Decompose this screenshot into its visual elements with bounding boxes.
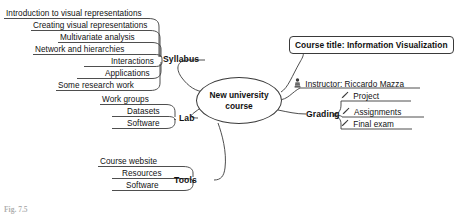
pen-icon — [340, 119, 349, 130]
list-item[interactable]: Datasets — [126, 108, 161, 117]
list-item[interactable]: Assignments — [340, 107, 402, 119]
list-item-label: Final exam — [353, 120, 394, 129]
list-item[interactable]: Software — [126, 120, 161, 129]
person-icon — [294, 78, 301, 90]
list-item[interactable]: Network and hierarchies — [34, 46, 125, 55]
list-item[interactable]: Resources — [121, 170, 163, 179]
list-item-label: Assignments — [354, 108, 401, 117]
central-node-label: New university course — [197, 90, 281, 111]
list-item[interactable]: Creating visual representations — [32, 22, 148, 31]
central-node[interactable]: New university course — [196, 77, 282, 124]
list-item[interactable]: Interactions — [110, 58, 155, 67]
branch-label-lab[interactable]: Lab — [179, 114, 195, 123]
branch-label-syllabus[interactable]: Syllabus — [163, 55, 199, 64]
list-item[interactable]: Applications — [104, 70, 151, 79]
list-item[interactable]: Project — [339, 91, 380, 103]
list-item[interactable]: Software — [125, 182, 160, 191]
list-item[interactable]: Some research work — [57, 82, 135, 91]
list-item[interactable]: Multivariate analysis — [59, 34, 136, 43]
list-item[interactable]: Final exam — [339, 119, 395, 131]
course-title-box[interactable]: Course title: Information Visualization — [289, 36, 454, 54]
list-item[interactable]: Introduction to visual representations — [5, 10, 143, 19]
list-item[interactable]: Work groups — [101, 96, 150, 105]
course-title-label: Course title: Information Visualization — [295, 40, 448, 50]
branch-label-grading[interactable]: Grading — [306, 110, 340, 119]
mind-map-canvas: Introduction to visual representations C… — [0, 0, 465, 214]
branch-label-tools[interactable]: Tools — [174, 176, 197, 185]
list-item[interactable]: Course website — [99, 158, 158, 167]
instructor-label: Instructor: Riccardo Mazza — [305, 80, 404, 89]
figure-caption: Fig. 7.5 — [4, 205, 28, 214]
list-item-label: Project — [353, 92, 379, 101]
pen-icon — [340, 91, 349, 102]
instructor-row[interactable]: Instructor: Riccardo Mazza — [293, 78, 405, 91]
pen-icon — [341, 107, 350, 118]
